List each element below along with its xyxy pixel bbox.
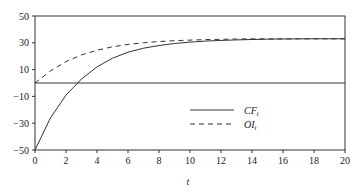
x-tick-label: 4 [95, 155, 100, 166]
legend-label-oi: OIt [244, 119, 258, 132]
legend: CFt OIt [190, 105, 260, 132]
y-tick-label: −10 [13, 91, 29, 102]
x-tick-label: 10 [185, 155, 195, 166]
x-tick-label: 16 [278, 155, 288, 166]
y-tick-label: 50 [19, 11, 29, 22]
axes: 503010−10−30−5002468101214161820 [13, 11, 350, 167]
y-tick-label: −30 [13, 118, 29, 129]
series-oi-t [35, 39, 345, 83]
x-tick-label: 6 [126, 155, 131, 166]
x-tick-label: 8 [157, 155, 162, 166]
x-tick-label: 2 [64, 155, 69, 166]
series-lines [35, 39, 345, 150]
y-tick-label: −50 [13, 145, 29, 156]
x-tick-label: 14 [247, 155, 257, 166]
legend-label-cf: CFt [244, 105, 260, 118]
series-cf-t [35, 39, 345, 150]
x-tick-label: 0 [33, 155, 38, 166]
x-tick-label: 18 [309, 155, 319, 166]
y-tick-label: 10 [19, 64, 29, 75]
y-tick-label: 30 [19, 37, 29, 48]
line-chart: 503010−10−30−5002468101214161820 CFt OIt… [0, 0, 359, 194]
x-tick-label: 20 [340, 155, 350, 166]
x-axis-title: t [187, 176, 190, 187]
x-tick-label: 12 [216, 155, 226, 166]
